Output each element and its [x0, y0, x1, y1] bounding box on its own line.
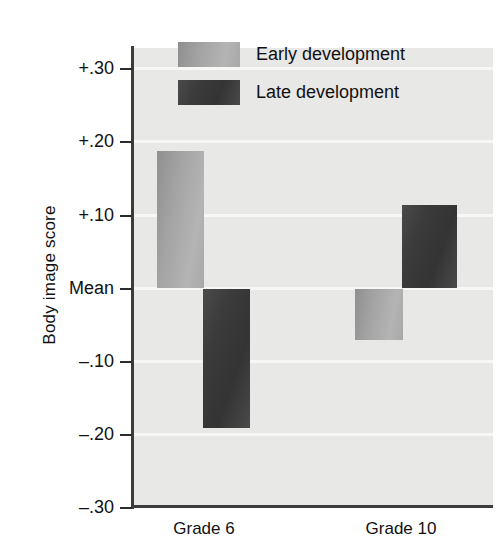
- legend-swatch-late-icon: [178, 80, 240, 105]
- legend: Early development Late development: [178, 40, 478, 116]
- bar-grade6-early: [157, 151, 204, 288]
- bar-grade10-late: [402, 205, 457, 288]
- y-tick-label-0: +.30: [12, 59, 132, 77]
- y-tick-label-1: +.20: [12, 132, 132, 150]
- legend-item-early: Early development: [178, 40, 478, 69]
- x-tick-label-grade6: Grade 6: [119, 519, 289, 539]
- gridline-0.20: [133, 140, 493, 143]
- legend-label-early: Early development: [256, 42, 405, 67]
- y-tick-label-6: –.30: [12, 498, 132, 516]
- bar-grade6-late: [203, 289, 250, 428]
- chart-figure: Body image score +.30 +.20 +.10 Mean –.1…: [0, 0, 497, 560]
- legend-swatch-early-icon: [178, 42, 240, 67]
- y-axis-title: Body image score: [40, 125, 60, 425]
- y-tick-label-5: –.20: [12, 425, 132, 443]
- x-tick-label-grade10: Grade 10: [316, 519, 486, 539]
- legend-label-late: Late development: [256, 80, 399, 105]
- gridline--0.10: [133, 360, 493, 363]
- y-tick-label-mean: Mean: [12, 279, 132, 297]
- y-tick-label-4: –.10: [12, 352, 132, 370]
- legend-item-late: Late development: [178, 78, 478, 107]
- y-tick-label-2: +.10: [12, 206, 132, 224]
- x-axis-line: [131, 505, 493, 508]
- bar-grade10-early: [355, 289, 403, 340]
- gridline--0.20: [133, 433, 493, 436]
